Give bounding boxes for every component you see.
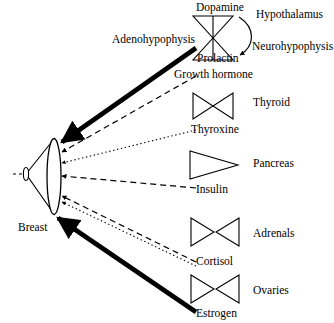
thyroxine-label: Thyroxine bbox=[191, 124, 239, 136]
line-prolactin-to-breast bbox=[62, 48, 196, 142]
line-growth-hormone-to-breast bbox=[62, 76, 196, 152]
breast-glyph bbox=[12, 139, 61, 215]
adrenals-label: Adrenals bbox=[253, 228, 295, 240]
line-thyroxine-to-breast bbox=[62, 130, 196, 163]
pancreas-triangle-glyph bbox=[190, 151, 238, 179]
line-estrogen-to-breast bbox=[58, 218, 196, 312]
endocrine-breast-diagram: Breast Adenohypophysis Neurohypophysis H… bbox=[0, 0, 334, 323]
pancreas-label: Pancreas bbox=[253, 158, 294, 170]
adenohypophysis-label: Adenohypophysis bbox=[112, 34, 195, 46]
cortisol-label: Cortisol bbox=[196, 256, 233, 268]
neurohypophysis-label: Neurohypophysis bbox=[252, 41, 333, 53]
prolactin-label: Prolactin bbox=[197, 53, 239, 65]
growth-hormone-label: Growth hormone bbox=[174, 69, 253, 81]
thyroid-hourglass-glyph bbox=[193, 93, 233, 119]
line-insulin-to-breast bbox=[62, 176, 196, 188]
breast-nipple bbox=[23, 168, 28, 181]
breast-label: Breast bbox=[18, 222, 47, 234]
hypothalamus-label: Hypothalamus bbox=[256, 9, 323, 21]
thyroid-label: Thyroid bbox=[253, 97, 290, 109]
dopamine-inhibition-curved-arrow bbox=[239, 17, 252, 55]
insulin-label: Insulin bbox=[196, 184, 228, 196]
estrogen-label: Estrogen bbox=[196, 308, 237, 320]
breast-base-ellipse bbox=[47, 139, 61, 215]
dopamine-label: Dopamine bbox=[196, 2, 244, 14]
line-cortisol-dashed-to-breast bbox=[62, 196, 196, 262]
adrenals-pair-glyph bbox=[191, 218, 239, 246]
ovaries-label: Ovaries bbox=[253, 285, 289, 297]
ovaries-pair-glyph bbox=[191, 275, 239, 303]
